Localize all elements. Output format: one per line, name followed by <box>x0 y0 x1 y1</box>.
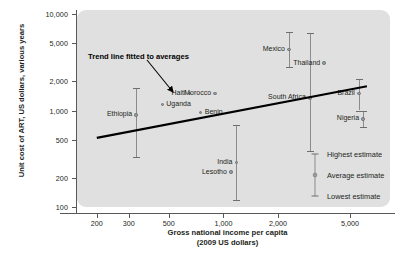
y-tick-label: 200 <box>28 174 68 183</box>
x-tick <box>97 214 98 218</box>
x-tick <box>278 214 279 218</box>
legend-item-lowest: Lowest estimate <box>327 192 380 201</box>
x-tick-label: 2,000 <box>256 219 300 228</box>
x-tick-label: 500 <box>147 219 191 228</box>
x-tick <box>350 214 351 218</box>
x-axis-line <box>60 213 395 214</box>
legend-item-average: Average estimate <box>327 171 384 180</box>
chart-figure: 1002005001,0002,0005,00010,000 200300500… <box>0 0 402 259</box>
x-tick-label: 5,000 <box>328 219 372 228</box>
x-axis-title-sub: (2009 US dollars) <box>60 238 395 248</box>
y-tick-label: 100 <box>28 203 68 212</box>
legend-item-highest: Highest estimate <box>327 150 382 159</box>
y-tick <box>72 178 76 179</box>
y-tick-label: 10,000 <box>28 10 68 19</box>
y-tick <box>72 14 76 15</box>
x-tick <box>169 214 170 218</box>
x-tick-label: 1,000 <box>201 219 245 228</box>
x-axis-title: Gross national income per capita (2009 U… <box>60 228 395 248</box>
y-tick <box>72 207 76 208</box>
x-axis-title-main: Gross national income per capita <box>60 228 395 238</box>
x-tick <box>223 214 224 218</box>
legend-symbol <box>307 148 323 202</box>
y-tick-label: 500 <box>28 136 68 145</box>
y-tick <box>72 81 76 82</box>
y-tick <box>72 140 76 141</box>
x-tick-label: 300 <box>107 219 151 228</box>
x-tick <box>129 214 130 218</box>
y-tick-label: 2,000 <box>28 77 68 86</box>
